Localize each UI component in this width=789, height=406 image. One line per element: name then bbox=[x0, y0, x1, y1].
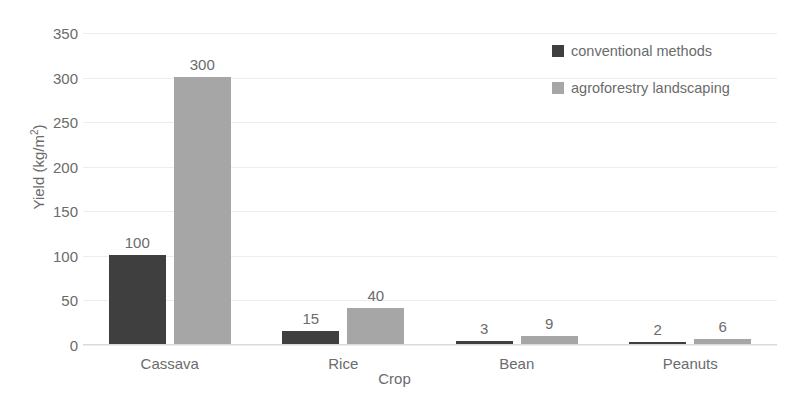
y-axis-tick-label: 150 bbox=[34, 204, 78, 219]
legend-swatch-icon bbox=[552, 82, 564, 94]
y-axis-tick-label: 0 bbox=[34, 338, 78, 353]
legend-label: conventional methods bbox=[571, 44, 712, 59]
bar-value-label: 6 bbox=[719, 319, 727, 334]
bar-value-label: 3 bbox=[480, 321, 488, 336]
bar bbox=[109, 255, 166, 344]
bar bbox=[282, 331, 339, 344]
y-axis-tick-label: 200 bbox=[34, 159, 78, 174]
y-axis-tick-label: 300 bbox=[34, 70, 78, 85]
bar-value-label: 100 bbox=[125, 235, 150, 250]
bar bbox=[629, 342, 686, 344]
bar-value-label: 15 bbox=[302, 311, 319, 326]
bar-value-label: 9 bbox=[545, 316, 553, 331]
bar-value-label: 40 bbox=[367, 288, 384, 303]
legend-label: agroforestry landscaping bbox=[571, 81, 730, 96]
bar bbox=[456, 341, 513, 344]
bar-chart: Yield (kg/m2) 050100150200250300350 1003… bbox=[0, 0, 789, 406]
bar-value-label: 2 bbox=[654, 322, 662, 337]
chart-legend: conventional methodsagroforestry landsca… bbox=[552, 44, 730, 117]
y-axis-tick-label: 100 bbox=[34, 248, 78, 263]
bar bbox=[174, 77, 231, 344]
bar bbox=[521, 336, 578, 344]
gridline bbox=[83, 33, 777, 34]
y-axis-tick-label: 50 bbox=[34, 293, 78, 308]
gridline bbox=[83, 345, 777, 346]
bar bbox=[694, 339, 751, 344]
legend-swatch-icon bbox=[552, 45, 564, 57]
x-axis-title: Crop bbox=[0, 370, 789, 387]
y-axis-tick-label: 250 bbox=[34, 115, 78, 130]
y-axis-tick-label: 350 bbox=[34, 26, 78, 41]
bar-value-label: 300 bbox=[190, 57, 215, 72]
y-axis-tick-labels: 050100150200250300350 bbox=[34, 0, 78, 406]
legend-item[interactable]: conventional methods bbox=[552, 44, 730, 59]
bar bbox=[347, 308, 404, 344]
legend-item[interactable]: agroforestry landscaping bbox=[552, 81, 730, 96]
